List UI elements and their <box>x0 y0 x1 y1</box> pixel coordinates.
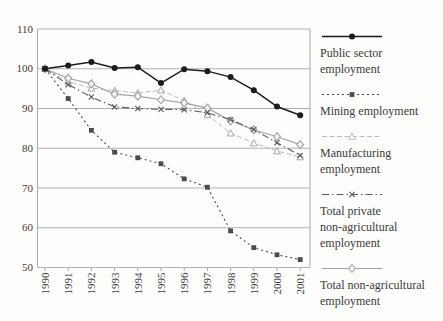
x-tick-label: 2000 <box>271 272 283 295</box>
marker-x <box>89 94 94 99</box>
y-tick-label: 110 <box>17 23 34 35</box>
legend-label-mining-employment: Mining employment <box>320 103 442 119</box>
marker-circle <box>297 112 303 118</box>
legend-sample-total-private-non-agricultural-employment <box>320 189 384 200</box>
legend-item-public-sector-employment: Public sectoremployment <box>320 31 442 77</box>
marker-x <box>158 107 163 112</box>
y-tick-label: 50 <box>22 261 34 273</box>
marker-square <box>298 257 303 262</box>
marker-square <box>251 245 256 250</box>
legend-item-manufacturing-employment: Manufacturingemployment <box>320 131 442 177</box>
marker-circle <box>65 63 71 69</box>
series-line <box>45 69 300 145</box>
series-total-private-non-agricultural-employment <box>42 66 302 158</box>
series-line <box>45 62 300 115</box>
legend-label-line: employment <box>320 61 442 77</box>
series-mining-employment <box>43 66 303 262</box>
series-public-sector-employment <box>42 59 303 118</box>
legend-label-line: employment <box>320 293 442 309</box>
y-tick-label: 90 <box>22 102 34 114</box>
marker-square <box>135 155 140 160</box>
marker-circle <box>274 104 280 110</box>
legend-sample-total-non-agricultural-employment <box>320 263 384 274</box>
marker-circle <box>135 64 141 70</box>
legend-sample-mining-employment <box>320 89 384 100</box>
marker-diamond-open <box>88 80 95 88</box>
legend-label-line: employment <box>320 161 442 177</box>
x-tick-label: 2001 <box>294 273 306 295</box>
marker-square <box>205 185 210 190</box>
marker-circle <box>88 59 94 65</box>
legend-item-total-private-non-agricultural-employment: Total privatenon-agriculturalemployment <box>320 189 442 251</box>
legend-label-public-sector-employment: Public sectoremployment <box>320 45 442 77</box>
x-tick-label: 1998 <box>225 272 237 295</box>
marker-square <box>182 176 187 181</box>
marker-diamond-open <box>158 96 165 104</box>
legend-label-line: Mining employment <box>320 103 442 119</box>
marker-circle <box>158 80 164 86</box>
legend-item-total-non-agricultural-employment: Total non-agriculturalemployment <box>320 263 442 309</box>
marker-diamond-open <box>181 99 188 107</box>
x-tick-label: 1992 <box>85 273 97 295</box>
legend-label-line: non-agricultural <box>320 219 442 235</box>
chart-panel: 1101009080706050199019911992199319941995… <box>0 0 443 321</box>
legend-label-line: employment <box>320 235 442 251</box>
series-manufacturing-employment <box>42 65 304 159</box>
x-tick-label: 1999 <box>248 272 260 295</box>
legend-label-line: Manufacturing <box>320 145 442 161</box>
chart-legend: Public sectoremploymentMining employment… <box>320 31 442 321</box>
x-tick-label: 1991 <box>62 273 74 295</box>
x-tick-label: 1997 <box>201 272 213 295</box>
series-line <box>45 69 300 260</box>
marker-triangle-open <box>250 140 257 146</box>
marker-circle <box>181 66 187 72</box>
marker-square <box>89 128 94 133</box>
x-tick-label: 1996 <box>178 272 190 295</box>
legend-label-line: Total non-agricultural <box>320 277 442 293</box>
marker-diamond-open <box>274 133 281 141</box>
legend-label-line: Public sector <box>320 45 442 61</box>
marker-circle <box>112 65 118 71</box>
marker-square <box>66 96 71 101</box>
y-tick-label: 80 <box>22 142 34 154</box>
legend-item-mining-employment: Mining employment <box>320 89 442 119</box>
marker-circle <box>42 66 48 72</box>
marker-circle <box>204 68 210 74</box>
y-tick-label: 60 <box>22 221 34 233</box>
legend-label-total-private-non-agricultural-employment: Total privatenon-agriculturalemployment <box>320 203 442 251</box>
y-tick-label: 100 <box>17 62 34 74</box>
marker-diamond-open <box>297 141 304 149</box>
legend-sample-manufacturing-employment <box>320 131 384 142</box>
marker-square <box>159 161 164 166</box>
y-tick-label: 70 <box>22 182 34 194</box>
legend-label-line: Total private <box>320 203 442 219</box>
x-tick-label: 1990 <box>39 272 51 295</box>
legend-sample-public-sector-employment <box>320 31 384 42</box>
marker-circle <box>228 74 234 80</box>
marker-diamond-open <box>349 265 356 273</box>
marker-circle <box>251 87 257 93</box>
x-tick-label: 1993 <box>109 272 121 295</box>
legend-label-total-non-agricultural-employment: Total non-agriculturalemployment <box>320 277 442 309</box>
x-tick-label: 1995 <box>155 272 167 295</box>
marker-square <box>112 150 117 155</box>
legend-label-manufacturing-employment: Manufacturingemployment <box>320 145 442 177</box>
marker-circle <box>349 34 355 40</box>
x-tick-label: 1994 <box>132 272 144 295</box>
marker-square <box>275 252 280 257</box>
marker-diamond-open <box>65 74 72 82</box>
marker-triangle-open <box>158 87 165 93</box>
marker-square <box>228 229 233 234</box>
marker-square <box>350 92 355 97</box>
